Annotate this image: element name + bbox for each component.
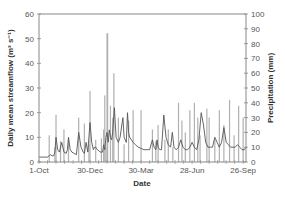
precipitation-bar bbox=[101, 138, 102, 162]
y2-tick-label: 60 bbox=[251, 69, 260, 78]
x-tick-label: 1-Oct bbox=[29, 166, 49, 175]
precipitation-bar bbox=[123, 144, 124, 162]
y2-tick-label: 40 bbox=[251, 99, 260, 108]
precipitation-bar bbox=[233, 135, 234, 162]
precipitation-bar bbox=[238, 106, 239, 162]
chart: 010203040506001020304050607080901001-Oct… bbox=[0, 0, 285, 199]
y2-axis-title: Precipitation (mm) bbox=[266, 53, 275, 124]
precipitation-bar bbox=[197, 118, 198, 162]
precipitation-bar bbox=[140, 110, 141, 162]
precipitation-bar bbox=[178, 103, 179, 162]
precipitation-bar bbox=[229, 100, 230, 162]
precipitation-bar bbox=[49, 135, 50, 162]
precipitation-bar bbox=[194, 103, 195, 162]
y2-tick-label: 80 bbox=[251, 40, 260, 49]
precipitation-bar bbox=[152, 129, 153, 162]
y-tick-label: 60 bbox=[25, 10, 34, 19]
y2-tick-label: 20 bbox=[251, 128, 260, 137]
y-tick-label: 10 bbox=[25, 133, 34, 142]
y2-tick-label: 100 bbox=[251, 10, 265, 19]
x-tick-label: 26-Sep bbox=[230, 166, 256, 175]
precipitation-bar bbox=[185, 132, 186, 162]
y-tick-label: 40 bbox=[25, 59, 34, 68]
y-axis-title: Daily mean streamflow (m³ s⁻¹) bbox=[6, 29, 15, 147]
y2-tick-label: 90 bbox=[251, 25, 260, 34]
precipitation-bar bbox=[133, 110, 134, 162]
precipitation-bar bbox=[172, 147, 173, 162]
y2-tick-label: 70 bbox=[251, 54, 260, 63]
y-tick-label: 50 bbox=[25, 35, 34, 44]
precipitation-bar bbox=[199, 135, 200, 162]
x-tick-label: 28-Jun bbox=[180, 166, 204, 175]
precipitation-bar bbox=[219, 110, 220, 162]
x-tick-label: 30-Dec bbox=[77, 166, 103, 175]
precipitation-bar bbox=[105, 147, 106, 162]
y2-tick-label: 50 bbox=[251, 84, 260, 93]
x-tick-label: 30-Mar bbox=[128, 166, 154, 175]
x-axis-title: Date bbox=[133, 179, 151, 188]
precipitation-bar bbox=[189, 110, 190, 162]
precipitation-bar bbox=[243, 118, 244, 162]
precipitation-bar bbox=[209, 118, 210, 162]
y2-tick-label: 10 bbox=[251, 143, 260, 152]
y-tick-label: 20 bbox=[25, 109, 34, 118]
precipitation-bar bbox=[95, 140, 96, 162]
y-tick-label: 30 bbox=[25, 84, 34, 93]
precipitation-bar bbox=[206, 109, 207, 162]
precipitation-bar bbox=[63, 129, 64, 162]
y2-tick-label: 30 bbox=[251, 114, 260, 123]
precipitation-bar bbox=[214, 140, 215, 162]
precipitation-bar bbox=[104, 95, 105, 162]
precipitation-bar bbox=[84, 124, 85, 162]
precipitation-bar bbox=[164, 140, 165, 162]
